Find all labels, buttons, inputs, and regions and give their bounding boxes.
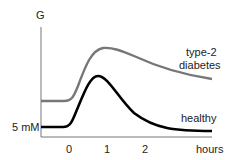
x-tick-1: 1	[104, 144, 110, 155]
y-axis-label: G	[36, 10, 45, 21]
x-axis-label: hours	[196, 144, 224, 155]
x-tick-0: 0	[66, 144, 72, 155]
x-tick-2: 2	[142, 144, 148, 155]
type-2-diabetes-label-line1: type-2	[186, 47, 217, 58]
reference-level-label: 5 mM	[12, 122, 40, 133]
type-2-diabetes-label-line2: diabetes	[179, 60, 221, 71]
glucose-chart	[0, 0, 232, 160]
healthy-label: healthy	[181, 113, 216, 124]
